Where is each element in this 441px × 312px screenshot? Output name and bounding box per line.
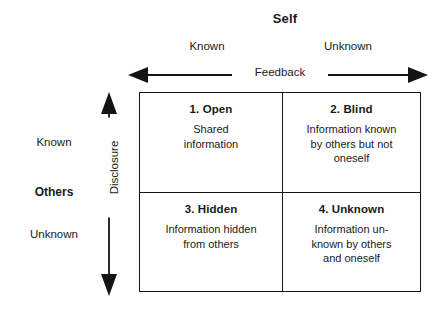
johari-matrix: 1. Open Shared information 2. Blind Info… — [139, 92, 421, 292]
quadrant-unknown-title: 4. Unknown — [289, 203, 414, 215]
quadrant-open: 1. Open Shared information — [140, 93, 283, 193]
quadrant-hidden-title: 3. Hidden — [146, 203, 276, 215]
quadrant-blind: 2. Blind Information known by others but… — [283, 93, 420, 193]
row-header-unknown: Unknown — [8, 228, 100, 240]
row-header-known: Known — [8, 136, 100, 148]
quadrant-blind-title: 2. Blind — [289, 103, 414, 115]
quadrant-hidden: 3. Hidden Information hidden from others — [140, 193, 283, 291]
quadrant-open-title: 1. Open — [146, 103, 276, 115]
self-axis-title: Self — [230, 11, 340, 26]
johari-window-diagram: Self Known Unknown Feedback Known Others… — [0, 0, 441, 312]
others-axis-title: Others — [8, 185, 100, 199]
quadrant-open-body: Shared information — [146, 122, 276, 151]
quadrant-unknown: 4. Unknown Information un- known by othe… — [283, 193, 420, 291]
disclosure-arrow-label: Disclosure — [107, 118, 122, 218]
column-header-unknown: Unknown — [293, 40, 403, 52]
feedback-arrow-label: Feedback — [232, 66, 328, 78]
quadrant-blind-body: Information known by others but not ones… — [289, 122, 414, 166]
quadrant-hidden-body: Information hidden from others — [146, 222, 276, 251]
column-header-known: Known — [152, 40, 262, 52]
quadrant-unknown-body: Information un- known by others and ones… — [289, 222, 414, 266]
